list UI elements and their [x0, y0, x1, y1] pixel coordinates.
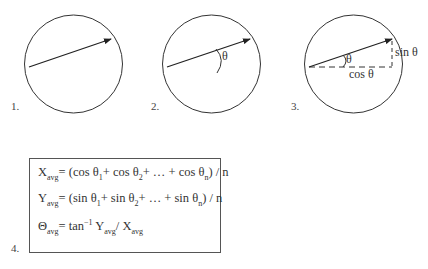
formula-y-avg: Yavg= (sin θ1+ sin θ2+ … + sin θn) / n [38, 191, 222, 208]
x-term-2: + cos θ [103, 165, 139, 179]
x-term-1: = (cos θ [59, 165, 99, 179]
angle-arc-2 [216, 49, 221, 73]
vector-diagrams: 1. θ 2. θ sin θ cos θ 3. [0, 0, 428, 150]
theta-subscript: avg [47, 227, 59, 236]
y-term-n: + … + sin θ [139, 191, 199, 205]
panel-label-3: 3. [291, 100, 300, 112]
panel-2: θ 2. [151, 15, 261, 113]
y-term-1: = (sin θ [59, 191, 97, 205]
x-symbol: X [38, 165, 47, 179]
x-subscript: avg [47, 173, 59, 182]
vector-arrow-1 [29, 39, 111, 67]
sin-theta-label: sin θ [395, 45, 418, 59]
theta-label-2: θ [222, 49, 228, 63]
y-divisor: ) / n [202, 191, 222, 205]
formula-box: Xavg= (cos θ1+ cos θ2+ … + cos θn) / n Y… [29, 158, 221, 253]
inverse-superscript: −1 [84, 218, 93, 227]
cos-theta-label: cos θ [349, 67, 374, 81]
theta-label-3: θ [346, 52, 352, 66]
y-symbol: Y [38, 191, 47, 205]
panel-label-1: 1. [11, 100, 20, 112]
x-term-n: + … + cos θ [143, 165, 205, 179]
panel-1: 1. [11, 15, 123, 113]
panel-label-2: 2. [151, 100, 160, 112]
x-avg-ref: / X [116, 219, 132, 233]
panel-3: θ sin θ cos θ 3. [291, 15, 418, 113]
y-subscript: avg [47, 199, 59, 208]
y-term-2: + sin θ [101, 191, 135, 205]
formula-x-avg: Xavg= (cos θ1+ cos θ2+ … + cos θn) / n [38, 165, 229, 182]
tan-function: = tan [59, 219, 84, 233]
x-divisor: ) / n [208, 165, 228, 179]
formula-theta-avg: Θavg= tan−1 Yavg/ Xavg [38, 218, 143, 236]
panel-label-4: 4. [11, 242, 19, 254]
y-avg-ref-subscript: avg [104, 227, 116, 236]
theta-symbol: Θ [38, 219, 47, 233]
x-avg-ref-subscript: avg [131, 227, 143, 236]
vector-arrow-2 [167, 39, 250, 67]
y-avg-ref: Y [93, 219, 105, 233]
